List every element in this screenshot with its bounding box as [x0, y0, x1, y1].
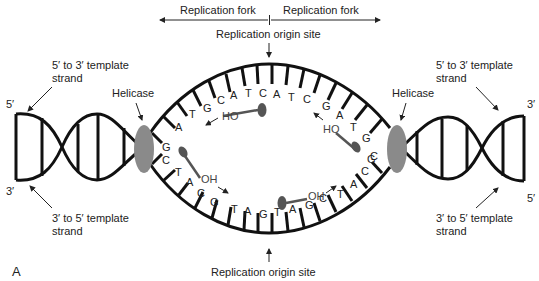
- base-letter: T: [288, 91, 295, 103]
- replication-fork-left-label: Replication fork: [180, 4, 256, 16]
- base-letter: A: [350, 178, 358, 190]
- replication-origin-top-label: Replication origin site: [216, 28, 321, 40]
- base-letter: A: [273, 88, 281, 100]
- base-letter: A: [336, 109, 344, 121]
- left-bottom-end-label: 3′: [6, 185, 14, 197]
- dna-replication-diagram: Replication fork Replication fork Replic…: [0, 0, 539, 281]
- svg-text:HO: HO: [323, 123, 340, 135]
- base-letter: A: [175, 121, 183, 133]
- helicase-left-label: Helicase: [112, 87, 154, 99]
- left-bottom-strand-label-line1: 3′ to 5′ template: [52, 212, 129, 224]
- right-double-helix: [403, 116, 524, 181]
- left-top-end-label: 5′: [6, 98, 14, 110]
- bubble-bottom-rungs: [152, 154, 382, 233]
- base-letter: C: [259, 87, 267, 99]
- base-letter: G: [162, 141, 171, 153]
- right-top-strand-arrow-icon: [476, 87, 498, 110]
- base-letter: T: [337, 188, 344, 200]
- helicase-left-icon: [134, 125, 154, 173]
- svg-text:OH: OH: [308, 190, 325, 202]
- base-letter: A: [244, 205, 252, 217]
- base-letter: T: [175, 166, 182, 178]
- helicase-right-label: Helicase: [392, 87, 434, 99]
- right-top-end-label: 3′: [527, 98, 535, 110]
- svg-text:HO: HO: [222, 110, 239, 122]
- base-letter: A: [186, 176, 194, 188]
- replication-origin-bottom-label: Replication origin site: [211, 266, 316, 278]
- left-top-strand-arrow-icon: [28, 87, 52, 111]
- left-bottom-strand-arrow-icon: [30, 186, 52, 208]
- base-letter: C: [361, 165, 369, 177]
- helicase-left-arrow-icon: [136, 103, 142, 120]
- helicase-right-arrow-icon: [401, 103, 406, 120]
- base-letter: T: [350, 121, 357, 133]
- panel-label: A: [12, 264, 21, 279]
- base-letter: C: [217, 94, 225, 106]
- right-bottom-strand-label-line2: strand: [436, 225, 467, 237]
- right-bottom-strand-arrow-icon: [476, 188, 498, 208]
- svg-text:OH: OH: [201, 173, 218, 185]
- base-letter: G: [362, 132, 371, 144]
- left-top-strand-label-line1: 5′ to 3′ template: [52, 59, 129, 71]
- bubble-top-rungs: [152, 64, 382, 143]
- right-bottom-end-label: 5′: [527, 192, 535, 204]
- base-letter: T: [231, 203, 238, 215]
- base-letter: A: [289, 203, 297, 215]
- helicase-right-icon: [387, 125, 407, 173]
- right-top-strand-label-line1: 5′ to 3′ template: [436, 59, 513, 71]
- base-letter: G: [322, 100, 331, 112]
- replication-fork-right-label: Replication fork: [283, 4, 359, 16]
- replication-fork-arrows: [160, 15, 380, 25]
- base-letter: C: [303, 93, 311, 105]
- base-letter: G: [203, 102, 212, 114]
- base-letter: G: [210, 196, 219, 208]
- left-bottom-strand-label-line2: strand: [52, 225, 83, 237]
- right-bottom-strand-label-line1: 3′ to 5′ template: [436, 212, 513, 224]
- base-letter: G: [259, 208, 268, 220]
- base-letter: T: [245, 87, 252, 99]
- left-top-strand-label-line2: strand: [52, 72, 83, 84]
- base-letter: G: [367, 153, 376, 165]
- right-top-strand-label-line2: strand: [436, 72, 467, 84]
- base-letter: A: [230, 89, 238, 101]
- primer-upper-left: HO: [206, 103, 267, 125]
- base-letter: C: [197, 187, 205, 199]
- base-letter: C: [162, 154, 170, 166]
- left-double-helix: [16, 114, 140, 180]
- bubble-top-bases: G A T G C A T C A T C G A T G C: [162, 87, 378, 162]
- base-letter: T: [189, 108, 196, 120]
